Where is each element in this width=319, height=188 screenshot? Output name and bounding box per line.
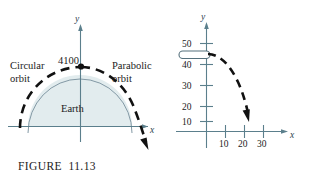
y-axis-arrowhead xyxy=(78,24,83,31)
circular-orbit-label-line1: Circular xyxy=(10,60,45,71)
parabolic-orbit-arrowhead xyxy=(140,137,148,150)
parabolic-orbit-label-line2: orbit xyxy=(112,73,132,84)
x-axis-label: x xyxy=(149,125,155,135)
trajectory-arrowhead xyxy=(243,109,250,122)
parabolic-orbit-label-line1: Parabolic xyxy=(112,60,152,71)
figure-page: Circular orbit Parabolic orbit 4100 Eart… xyxy=(0,0,319,188)
x-tick-label-30: 30 xyxy=(257,139,267,149)
figure-11-13: Circular orbit Parabolic orbit 4100 Eart… xyxy=(0,0,162,188)
x-tick-label-10: 10 xyxy=(219,139,229,149)
figure-11-14: 50 40 30 20 10 10 20 30 y x FIGURE 11.14 xyxy=(162,0,319,188)
altitude-label: 4100 xyxy=(58,55,79,66)
y-tick-label-10: 10 xyxy=(182,117,192,127)
x-axis-label: x xyxy=(289,130,295,140)
y-axis-label: y xyxy=(200,12,206,22)
x-axis-arrowhead xyxy=(281,129,288,134)
figure-11-13-caption: FIGURE 11.13 xyxy=(18,160,96,172)
launcher-barrel xyxy=(179,51,210,59)
y-axis-label: y xyxy=(74,14,80,24)
x-tick-label-20: 20 xyxy=(238,139,248,149)
earth-label: Earth xyxy=(61,103,84,114)
y-tick-label-40: 40 xyxy=(182,60,192,70)
figure-11-14-graphic: 50 40 30 20 10 10 20 30 y x xyxy=(162,0,319,160)
x-axis-arrowhead xyxy=(142,124,148,129)
circular-orbit-label-line2: orbit xyxy=(10,73,30,84)
y-tick-label-30: 30 xyxy=(182,81,192,91)
y-tick-label-50: 50 xyxy=(182,39,192,49)
figure-11-13-graphic: Circular orbit Parabolic orbit 4100 Eart… xyxy=(0,0,162,160)
y-axis-arrowhead xyxy=(204,22,209,29)
y-tick-label-20: 20 xyxy=(182,102,192,112)
trajectory-curve xyxy=(208,54,248,113)
